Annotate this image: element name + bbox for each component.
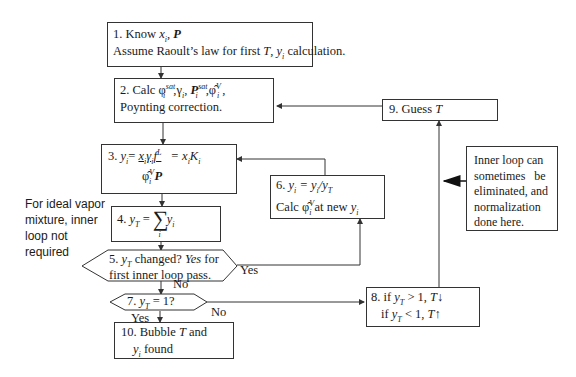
- down-arrow-icon: ↓: [437, 290, 443, 304]
- step-3-denominator: φ̂Vi P: [108, 168, 230, 185]
- inner-loop-note: Inner loop can sometimes be eliminated, …: [466, 146, 558, 231]
- edge-label-yes-5: Yes: [240, 263, 258, 278]
- edge-label-yes-7: Yes: [131, 311, 149, 326]
- up-arrow-icon: ↑: [435, 307, 441, 321]
- step-3-numerator: 3. yi= xiγifL = xiKi: [108, 148, 230, 165]
- step-6-box: 6. yi = yi/yT Calc φ̂Vi at new yi: [270, 175, 385, 219]
- step-10-box: 10. Bubble T and yi found: [114, 322, 234, 359]
- step-1-line-1: 1. Know xi, P: [113, 26, 307, 43]
- edge-label-no-5: No: [173, 277, 188, 292]
- step-7-decision: 7. yT = 1?: [127, 293, 175, 309]
- step-8-box: 8. if yT > 1, T↓ if yT < 1, T↑: [366, 287, 480, 327]
- step-3-fraction-numerator: xiγifL: [138, 149, 161, 163]
- step-9-box: 9. Guess T: [382, 99, 498, 121]
- edge-label-no-7: No: [211, 305, 226, 320]
- step-5-decision: 5. yT changed? Yes for first inner loop …: [109, 251, 219, 283]
- step-2-box: 2. Calc φsati,γi, Psati,φ̂Vi , Poynting …: [114, 78, 274, 123]
- step-6-line-2: Calc φ̂Vi at new yi: [276, 199, 379, 216]
- ideal-vapor-note: For ideal vapor mixture, inner loop not …: [25, 196, 105, 260]
- step-1-line-2: Assume Raoult’s law for first T, yi calc…: [113, 43, 307, 60]
- step-4-box: 4. yT = ∑iyi: [111, 206, 221, 242]
- step-1-box: 1. Know xi, P Assume Raoult’s law for fi…: [107, 22, 313, 67]
- step-2-line-2: Poynting correction.: [120, 99, 268, 116]
- step-6-line-1: 6. yi = yi/yT: [276, 177, 379, 194]
- step-2-line-1: 2. Calc φsati,γi, Psati,φ̂Vi ,: [120, 82, 268, 99]
- step-3-box: 3. yi= xiγifL = xiKi φ̂Vi P: [101, 144, 237, 194]
